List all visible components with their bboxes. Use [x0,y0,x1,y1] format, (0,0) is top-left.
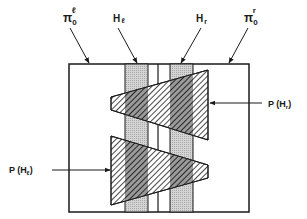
arrow-h-right [181,28,201,63]
label-pi-right: π0r [244,6,258,27]
label-p-h-right: P (Hr) [268,99,291,110]
diagram-canvas: π0ℓ Hℓ Hr π0r P (Hr) P (Hℓ) [0,0,307,219]
arrow-h-left [118,28,137,63]
label-p-h-left: P (Hℓ) [9,165,33,176]
arrow-pi-left [70,28,89,63]
label-pi-left: π0ℓ [63,6,77,27]
label-h-right: Hr [196,13,207,25]
label-h-left: Hℓ [113,13,125,24]
arrow-pi-right [229,28,248,63]
